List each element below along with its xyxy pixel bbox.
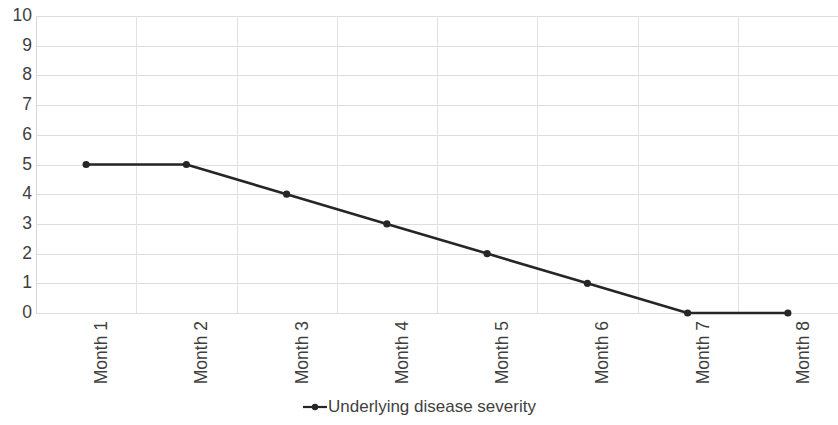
legend-entry-underlying-disease-severity[interactable]: Underlying disease severity (302, 398, 536, 415)
x-axis-tick-label: Month 3 (294, 321, 312, 384)
x-axis-tick-label: Month 8 (795, 321, 813, 384)
legend-line-marker-icon (302, 400, 328, 414)
x-axis-tick-label: Month 7 (695, 321, 713, 384)
x-axis-tick-label: Month 5 (494, 321, 512, 384)
x-axis-tick-label: Month 6 (594, 321, 612, 384)
line-chart: 109876543210 Month 1Month 2Month 3Month … (0, 0, 838, 425)
x-axis-tick-label: Month 2 (193, 321, 211, 384)
x-axis-tick-labels: Month 1Month 2Month 3Month 4Month 5Month… (0, 0, 838, 425)
legend-label: Underlying disease severity (328, 398, 536, 415)
chart-legend: Underlying disease severity (0, 398, 838, 415)
x-axis-tick-label: Month 4 (394, 321, 412, 384)
x-axis-tick-label: Month 1 (93, 321, 111, 384)
